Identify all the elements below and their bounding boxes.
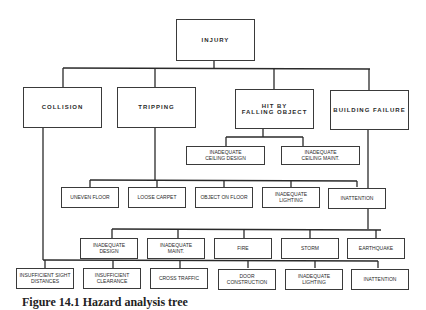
node-label: INATTENTION <box>341 196 374 201</box>
node-building-failure: BUILDING FAILURE <box>330 90 409 130</box>
node-label: INADEQUATE LIGHTING <box>275 192 307 203</box>
node-inadequate-lighting-tripping: INADEQUATE LIGHTING <box>262 187 320 208</box>
node-label: COLLISION <box>42 104 84 110</box>
node-uneven-floor: UNEVEN FLOOR <box>61 187 119 208</box>
node-storm: STORM <box>281 238 339 259</box>
node-loose-carpet: LOOSE CARPET <box>128 187 186 208</box>
node-label: TRIPPING <box>138 104 174 110</box>
node-object-on-floor: OBJECT ON FLOOR <box>195 187 253 208</box>
node-label: INSUFFICIENT CLEARANCE <box>95 273 129 284</box>
node-label: INATTENTION <box>364 277 397 282</box>
node-label: INADEQUATE DESIGN <box>93 243 125 254</box>
node-label: INADEQUATE LIGHTING <box>298 274 330 285</box>
node-label: STORM <box>301 246 319 251</box>
node-tripping: TRIPPING <box>117 87 196 128</box>
node-label: OBJECT ON FLOOR <box>200 195 247 200</box>
node-label: INADEQUATE MAINT. <box>160 243 192 254</box>
node-label: CROSS TRAFFIC <box>159 276 199 281</box>
node-hit-by-falling-object: HIT BY FALLING OBJECT <box>235 89 314 129</box>
node-door-construction: DOOR CONSTRUCTION <box>218 269 276 290</box>
node-label: HIT BY FALLING OBJECT <box>242 103 308 116</box>
node-label: UNEVEN FLOOR <box>70 195 109 200</box>
node-label: INADEQUATE CEILING DESIGN <box>205 150 246 161</box>
node-inattention-tripping: INATTENTION <box>328 188 386 209</box>
node-fire: FIRE <box>214 238 272 259</box>
node-label: BUILDING FAILURE <box>333 107 405 113</box>
node-injury: INJURY <box>176 19 255 61</box>
node-inattention-collision: INATTENTION <box>351 269 409 290</box>
node-label: INSUFFICIENT SIGHT DISTANCES <box>19 273 70 284</box>
node-label: INADEQUATE CEILING MAINT. <box>302 150 340 161</box>
node-label: EARTHQUAKE <box>359 246 393 251</box>
node-insufficient-clearance: INSUFFICIENT CLEARANCE <box>83 268 141 289</box>
node-inadequate-maint: INADEQUATE MAINT. <box>147 238 205 259</box>
node-label: DOOR CONSTRUCTION <box>227 274 267 285</box>
node-inadequate-ceiling-design: INADEQUATE CEILING DESIGN <box>186 146 265 165</box>
node-insufficient-sight-distances: INSUFFICIENT SIGHT DISTANCES <box>16 268 74 289</box>
node-collision: COLLISION <box>23 87 102 128</box>
node-cross-traffic: CROSS TRAFFIC <box>150 268 208 289</box>
node-inadequate-lighting-collision: INADEQUATE LIGHTING <box>285 269 343 290</box>
figure-caption: Figure 14.1 Hazard analysis tree <box>22 295 188 310</box>
node-inadequate-design: INADEQUATE DESIGN <box>80 238 138 259</box>
node-earthquake: EARTHQUAKE <box>347 238 405 259</box>
node-label: FIRE <box>237 246 248 251</box>
node-label: LOOSE CARPET <box>138 195 177 200</box>
node-label: INJURY <box>202 37 230 43</box>
node-inadequate-ceiling-maint: INADEQUATE CEILING MAINT. <box>281 146 360 165</box>
